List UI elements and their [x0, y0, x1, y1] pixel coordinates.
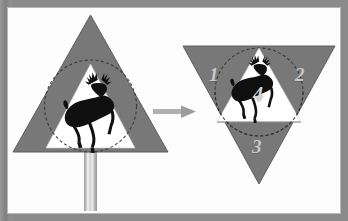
region-label-2: 2 [295, 65, 305, 84]
region-label-1: 1 [209, 65, 219, 84]
right-figure-svg [181, 40, 337, 190]
figure-canvas: 1 2 3 4 [7, 7, 341, 214]
left-sign-group [11, 9, 171, 214]
region-label-3: 3 [252, 137, 262, 156]
figure-root: 1 2 3 4 [0, 0, 348, 221]
right-figure-group: 1 2 3 4 [181, 40, 337, 190]
region-label-4: 4 [253, 84, 263, 104]
left-sign-svg [11, 9, 171, 159]
